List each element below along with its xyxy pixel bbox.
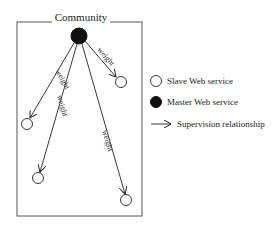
slave-service-node-3 xyxy=(116,77,127,88)
legend-label-master: Master Web service xyxy=(167,97,238,107)
slave-service-node-2 xyxy=(33,173,44,184)
slave-service-node-1 xyxy=(22,119,33,130)
legend-label-supervision: Supervision relationship xyxy=(177,119,265,129)
community-title: Community xyxy=(55,11,108,23)
edge-label-slave-4: weight xyxy=(100,129,115,153)
edge-label-slave-2: weight xyxy=(55,94,70,118)
slave-service-node-4 xyxy=(121,195,132,206)
legend-open-circle-icon xyxy=(151,76,162,87)
edge-master-to-slave-4 xyxy=(82,44,125,194)
community-diagram: Community weight weight weight weight Sl… xyxy=(0,0,280,226)
legend-label-slave: Slave Web service xyxy=(167,76,233,86)
master-service-node xyxy=(71,28,87,44)
legend-filled-circle-icon xyxy=(151,97,162,108)
legend: Slave Web service Master Web service Sup… xyxy=(151,76,266,130)
